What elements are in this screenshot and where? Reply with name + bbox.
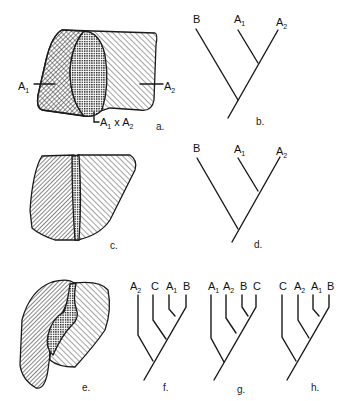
taxon-a2: A2 (223, 280, 234, 294)
taxon-b: B (183, 280, 190, 292)
panel-h-caption: h. (311, 382, 319, 393)
panel-d-caption: d. (254, 239, 262, 250)
panel-e-caption: e. (82, 382, 90, 393)
taxon-b: B (327, 280, 334, 292)
panel-f-cladogram: A2 C A1 B f. (130, 280, 190, 393)
taxon-a1: A1 (234, 143, 245, 157)
panel-e-range-map: e. (20, 280, 109, 393)
panel-c-caption: c. (110, 240, 118, 251)
panel-b-cladogram: B A1 A2 b. (193, 13, 287, 127)
taxon-b: B (240, 280, 247, 292)
panel-a-label-a1: A1 (18, 80, 29, 94)
panel-a-caption: a. (156, 121, 164, 132)
panel-a-label-a2: A2 (164, 80, 175, 94)
panel-f-caption: f. (163, 382, 169, 393)
taxon-b: B (193, 142, 200, 154)
taxon-c: C (151, 280, 159, 292)
taxon-a2: A2 (276, 16, 287, 30)
taxon-c: C (253, 280, 261, 292)
taxon-a2: A2 (294, 280, 305, 294)
taxon-a1: A1 (234, 13, 245, 27)
taxon-a2: A2 (130, 280, 141, 294)
panel-a-range-map: A1 A2 A1 x A2 a. (18, 30, 175, 132)
panel-c-range-map: c. (30, 155, 136, 251)
taxon-a1: A1 (166, 280, 177, 294)
panel-h-cladogram: C A2 A1 B h. (279, 280, 334, 393)
panel-g-caption: g. (237, 384, 245, 395)
taxon-c: C (279, 280, 287, 292)
panel-g-cladogram: A1 A2 B C g. (208, 280, 261, 395)
panel-b-caption: b. (256, 116, 264, 127)
figure-canvas: A1 A2 A1 x A2 a. B A1 A2 b. c. B A1 A2 d… (0, 0, 348, 401)
taxon-a1: A1 (208, 280, 219, 294)
taxon-b: B (193, 13, 200, 25)
taxon-a2: A2 (276, 145, 287, 159)
panel-a-label-overlap: A1 x A2 (100, 116, 134, 130)
taxon-a1: A1 (311, 280, 322, 294)
panel-d-cladogram: B A1 A2 d. (193, 142, 287, 250)
